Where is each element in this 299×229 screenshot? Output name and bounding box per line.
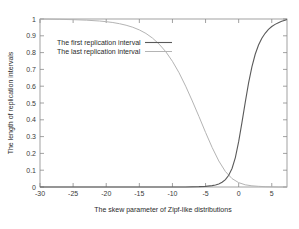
x-tick-label: -20: [101, 190, 111, 197]
x-tick-label: -10: [167, 190, 177, 197]
y-tick-label: 0.5: [26, 100, 36, 107]
y-tick-label: 0.4: [26, 116, 36, 123]
x-tick-label: 5: [270, 190, 274, 197]
x-tick-label: -30: [35, 190, 45, 197]
legend-label-first: The first replication interval: [57, 39, 141, 47]
y-tick-label: 1: [32, 16, 36, 23]
y-tick-label: 0.2: [26, 150, 36, 157]
y-axis-title: The length of replication intervals: [7, 51, 15, 154]
y-tick-label: 0.1: [26, 167, 36, 174]
chart-figure: -30-25-20-15-10-505 00.10.20.30.40.50.60…: [0, 0, 299, 229]
chart-legend: The first replication interval The last …: [57, 39, 172, 56]
y-axis-tick-labels: 00.10.20.30.40.50.60.70.80.91: [26, 16, 36, 191]
legend-label-last: The last replication interval: [57, 48, 141, 56]
x-axis-tick-labels: -30-25-20-15-10-505: [35, 190, 274, 197]
x-tick-label: -25: [68, 190, 78, 197]
y-tick-label: 0.8: [26, 49, 36, 56]
y-tick-label: 0.9: [26, 32, 36, 39]
y-tick-label: 0: [32, 184, 36, 191]
x-axis-title: The skew parameter of Zipf-like distribu…: [94, 206, 232, 214]
x-tick-label: -5: [202, 190, 208, 197]
x-tick-label: -15: [134, 190, 144, 197]
y-tick-label: 0.6: [26, 83, 36, 90]
y-tick-label: 0.3: [26, 133, 36, 140]
y-tick-label: 0.7: [26, 66, 36, 73]
chart-canvas: -30-25-20-15-10-505 00.10.20.30.40.50.60…: [0, 0, 299, 229]
x-tick-label: 0: [237, 190, 241, 197]
